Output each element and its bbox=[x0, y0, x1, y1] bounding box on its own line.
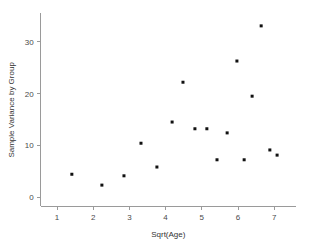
data-point bbox=[243, 158, 246, 161]
data-point bbox=[122, 174, 125, 177]
data-point bbox=[100, 184, 103, 187]
data-point bbox=[235, 60, 238, 63]
x-tick-label: 3 bbox=[127, 213, 132, 222]
x-axis-ticks: 1234567 bbox=[55, 206, 277, 222]
data-point bbox=[70, 173, 73, 176]
x-tick-label: 5 bbox=[200, 213, 205, 222]
data-point bbox=[139, 142, 142, 145]
data-point bbox=[251, 95, 254, 98]
x-tick-label: 6 bbox=[236, 213, 241, 222]
data-point bbox=[155, 166, 158, 169]
axes-group bbox=[41, 13, 296, 206]
x-tick-label: 7 bbox=[272, 213, 277, 222]
data-point bbox=[205, 127, 208, 130]
data-point bbox=[276, 154, 279, 157]
data-point bbox=[260, 24, 263, 27]
y-tick-label: 30 bbox=[25, 38, 34, 47]
data-point bbox=[171, 121, 174, 124]
y-tick-label: 20 bbox=[25, 90, 34, 99]
y-tick-label: 10 bbox=[25, 141, 34, 150]
x-axis-title: Sqrt(Age) bbox=[151, 230, 186, 239]
data-points-group bbox=[70, 24, 278, 186]
x-tick-label: 1 bbox=[55, 213, 60, 222]
x-tick-label: 4 bbox=[163, 213, 168, 222]
y-axis-title: Sample Variance by Group bbox=[7, 62, 16, 158]
plot-canvas: 0102030 1234567 Sqrt(Age) Sample Varianc… bbox=[0, 0, 310, 250]
data-point bbox=[181, 81, 184, 84]
scatter-plot-figure: 0102030 1234567 Sqrt(Age) Sample Varianc… bbox=[0, 0, 310, 250]
data-point bbox=[268, 148, 271, 151]
data-point bbox=[193, 127, 196, 130]
data-point bbox=[216, 158, 219, 161]
y-axis-ticks: 0102030 bbox=[25, 38, 41, 202]
data-point bbox=[226, 131, 229, 134]
x-tick-label: 2 bbox=[91, 213, 96, 222]
y-tick-label: 0 bbox=[29, 193, 34, 202]
